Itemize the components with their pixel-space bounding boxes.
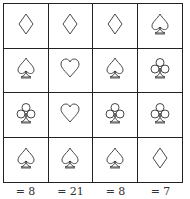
- column-sum-2: = 21: [48, 184, 93, 199]
- club-icon: [149, 56, 171, 84]
- cell-r2-c2: [49, 49, 94, 94]
- spade-icon: [149, 12, 171, 40]
- cell-r3-c1: [4, 93, 49, 138]
- column-sum-labels: = 8 = 21 = 8 = 7: [3, 184, 183, 199]
- diamond-icon: [104, 12, 126, 40]
- diamond-icon: [149, 146, 171, 174]
- spade-icon: [104, 146, 126, 174]
- heart-icon: [59, 56, 81, 84]
- cell-r2-c1: [4, 49, 49, 94]
- suit-grid: [3, 3, 183, 183]
- cell-r2-c3: [93, 49, 138, 94]
- cell-r4-c1: [4, 138, 49, 183]
- column-sum-4: = 7: [138, 184, 183, 199]
- spade-icon: [59, 146, 81, 174]
- cell-r1-c1: [4, 4, 49, 49]
- cell-r1-c2: [49, 4, 94, 49]
- cell-r4-c3: [93, 138, 138, 183]
- spade-icon: [104, 56, 126, 84]
- column-sum-3: = 8: [93, 184, 138, 199]
- cell-r1-c4: [138, 4, 183, 49]
- club-icon: [104, 101, 126, 129]
- cell-r3-c3: [93, 93, 138, 138]
- cell-r2-c4: [138, 49, 183, 94]
- club-icon: [15, 101, 37, 129]
- cell-r4-c2: [49, 138, 94, 183]
- cell-r3-c2: [49, 93, 94, 138]
- cell-r1-c3: [93, 4, 138, 49]
- heart-icon: [59, 101, 81, 129]
- spade-icon: [15, 56, 37, 84]
- cell-r3-c4: [138, 93, 183, 138]
- column-sum-1: = 8: [3, 184, 48, 199]
- spade-icon: [15, 146, 37, 174]
- diamond-icon: [15, 12, 37, 40]
- cell-r4-c4: [138, 138, 183, 183]
- diamond-icon: [59, 12, 81, 40]
- club-icon: [149, 101, 171, 129]
